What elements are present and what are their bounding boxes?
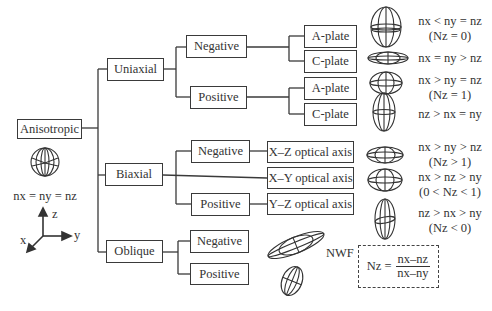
nwf-label: NWF	[326, 246, 354, 261]
relation-1-line1: nx < ny = nz	[410, 14, 490, 29]
uniaxial-node: Uniaxial	[107, 58, 164, 81]
neg-c-plate-node: C-plate	[304, 50, 357, 73]
relation-5-line1: nx > ny > nz	[410, 140, 490, 155]
nz-formula-fraction: nx–nz nx–ny	[396, 253, 431, 280]
relation-4-line1: nz > nx = ny	[410, 107, 490, 122]
ellipsoid-icon-2	[368, 52, 408, 64]
pos-c-plate-node: C-plate	[304, 103, 357, 126]
tilted-ellipsoid-icon-2	[277, 263, 307, 298]
ellipsoid-icon-3	[370, 72, 402, 94]
nz-formula-box: Nz = nx–nz nx–ny	[358, 245, 439, 288]
nz-formula-numerator: nx–nz	[396, 253, 431, 267]
biaxial-positive-node: Positive	[191, 193, 250, 216]
uniaxial-negative-node: Negative	[186, 35, 247, 58]
relation-6-line1: nx > nz > ny	[410, 170, 490, 185]
sphere-icon	[31, 148, 59, 176]
relation-6-line2: (0 < Nz < 1)	[410, 185, 490, 200]
relation-3-line1: nx > ny = nz	[410, 73, 490, 88]
relation-2-line1: nx = ny > nz	[410, 51, 490, 66]
axis-x-label: x	[20, 233, 26, 248]
axis-y-label: y	[74, 228, 80, 243]
oblique-positive-node: Positive	[190, 263, 249, 285]
tilted-ellipsoid-icon-1	[265, 226, 327, 263]
nz-formula-denominator: nx–ny	[397, 267, 428, 280]
relation-5-line2: (Nz > 1)	[410, 155, 490, 170]
xz-optical-axis-node: X–Z optical axis	[267, 141, 354, 163]
axis-z-label: z	[52, 207, 58, 222]
axes-icon	[27, 208, 71, 252]
biaxial-negative-node: Negative	[191, 140, 250, 163]
pos-a-plate-node: A-plate	[304, 77, 357, 100]
oblique-negative-node: Negative	[190, 230, 249, 253]
ellipsoid-icon-6	[368, 169, 402, 191]
yz-optical-axis-node: Y–Z optical axis	[267, 193, 354, 215]
relation-7-line2: (Nz < 0)	[410, 221, 490, 236]
ellipsoid-icon-1	[371, 7, 401, 47]
xy-optical-axis-node: X–Y optical axis	[267, 167, 354, 189]
relation-3-line2: (Nz = 1)	[410, 88, 490, 103]
biaxial-node: Biaxial	[105, 163, 163, 186]
nz-formula-lhs: Nz =	[367, 259, 392, 274]
ellipsoid-icon-5	[367, 147, 403, 163]
uniaxial-positive-node: Positive	[190, 86, 247, 109]
relation-7-line1: nz > nx > ny	[410, 206, 490, 221]
ellipsoid-icon-4	[373, 93, 395, 131]
relation-1-line2: (Nz = 0)	[410, 29, 490, 44]
ellipsoid-icon-7	[375, 199, 396, 239]
neg-a-plate-node: A-plate	[304, 25, 357, 48]
isotropic-relation: nx = ny = nz	[10, 189, 80, 204]
oblique-node: Oblique	[106, 240, 163, 263]
anisotropic-node: Anisotropic	[17, 119, 82, 139]
